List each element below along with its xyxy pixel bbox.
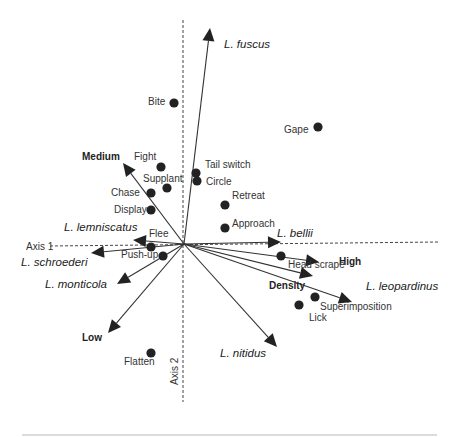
species-label-l-monticola: L. monticola (45, 278, 107, 290)
bottom-divider (22, 434, 437, 436)
species-label-l-leopardinus: L. leopardinus (366, 280, 438, 292)
behavior-point-push-up (158, 251, 167, 260)
behavior-point-retreat (220, 200, 229, 209)
species-vector-l-monticola-arrowhead-icon (117, 272, 131, 284)
species-label-l-schroederi: L. schroederi (21, 256, 88, 268)
species-label-l-fuscus: L. fuscus (224, 38, 270, 50)
behavior-label-circle: Circle (206, 176, 232, 187)
behavior-label-chase: Chase (111, 187, 140, 198)
axis-2-label: Axis 2 (169, 357, 180, 385)
factor-label-low: Low (82, 332, 102, 343)
behavior-label-supplant: Supplant (143, 173, 183, 184)
behavior-label-tail-switch: Tail switch (205, 159, 251, 170)
biplot-canvas: Axis 1Axis 2L. fuscusL. belliiL. leopard… (0, 0, 455, 437)
behavior-point-tail-switch (191, 168, 200, 177)
behavior-label-bite: Bite (148, 96, 166, 107)
behavior-label-display: Display (114, 204, 147, 215)
axes-layer (50, 20, 440, 402)
behavior-point-circle (192, 176, 201, 185)
factor-label-medium: Medium (82, 151, 120, 162)
behavior-point-gape (313, 122, 322, 131)
behavior-point-head-scrape (276, 251, 285, 260)
behavior-point-bite (169, 98, 178, 107)
behavior-point-fight (156, 162, 165, 171)
behavior-point-approach (220, 223, 229, 232)
behavior-point-lick (294, 300, 303, 309)
behavior-label-flee: Flee (149, 228, 169, 239)
biplot-figure: Axis 1Axis 2L. fuscusL. belliiL. leopard… (0, 0, 455, 437)
factor-vector-low-arrowhead-icon (108, 319, 121, 333)
species-label-l-bellii: L. bellii (277, 227, 313, 239)
behavior-label-fight: Fight (134, 151, 156, 162)
behavior-label-push-up: Push-up (121, 249, 159, 260)
labels-layer: Axis 1Axis 2L. fuscusL. belliiL. leopard… (21, 38, 438, 385)
species-vector-l-fuscus-line (184, 41, 208, 244)
species-label-l-lemniscatus: L. lemniscatus (64, 221, 138, 233)
factor-label-density: Density (269, 280, 306, 291)
behavior-label-flatten: Flatten (124, 356, 155, 367)
behavior-label-approach: Approach (232, 218, 275, 229)
behavior-label-superimposition: Superimposition (320, 301, 392, 312)
behavior-label-retreat: Retreat (232, 190, 265, 201)
species-vector-l-schroederi-arrowhead-icon (91, 246, 105, 258)
factor-vector-medium-arrowhead-icon (123, 163, 136, 177)
behavior-point-display (146, 205, 155, 214)
axis-1-label: Axis 1 (26, 241, 54, 252)
species-vector-l-fuscus-arrowhead-icon (202, 28, 214, 42)
behavior-point-chase (146, 188, 155, 197)
behavior-point-superimposition (310, 292, 319, 301)
behavior-label-gape: Gape (284, 124, 309, 135)
behavior-label-lick: Lick (309, 312, 328, 323)
behavior-label-head-scrape: Head scrape (288, 259, 345, 270)
factor-vector-high-line (184, 244, 306, 260)
species-vector-l-leopardinus-line (184, 244, 340, 298)
behavior-point-supplant (162, 183, 171, 192)
species-label-l-nitidus: L. nitidus (220, 347, 266, 359)
